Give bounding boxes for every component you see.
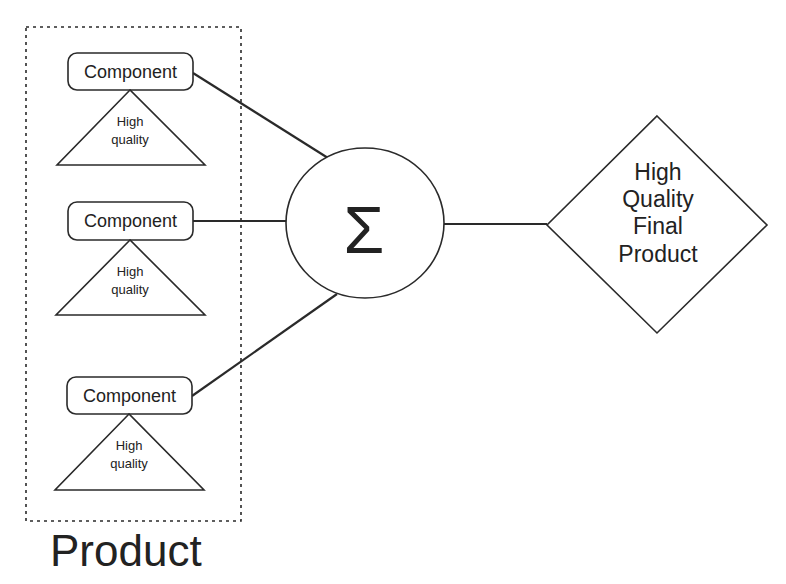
quality-label-line-1: High xyxy=(117,264,144,279)
quality-label-line-1: High xyxy=(116,438,143,453)
quality-aggregation-diagram: Product Component High quality Component… xyxy=(0,0,786,584)
connector-component-1-to-sum xyxy=(193,73,328,158)
component-label: Component xyxy=(84,211,177,231)
product-group-label: Product xyxy=(50,526,202,575)
connector-component-3-to-sum xyxy=(192,294,337,396)
final-product-label-line-2: Quality xyxy=(622,186,694,212)
quality-label-line-2: quality xyxy=(111,132,149,147)
component-node-1: Component High quality xyxy=(57,53,205,165)
component-label: Component xyxy=(83,386,176,406)
component-label: Component xyxy=(84,62,177,82)
quality-label-line-1: High xyxy=(117,114,144,129)
final-product-label-line-4: Product xyxy=(618,241,698,267)
component-node-2: Component High quality xyxy=(56,202,205,315)
summation-icon: Σ xyxy=(344,193,385,267)
final-product-label-line-1: High xyxy=(634,159,681,185)
component-node-3: Component High quality xyxy=(55,377,204,490)
quality-label-line-2: quality xyxy=(111,282,149,297)
final-product-node: High Quality Final Product xyxy=(547,116,767,333)
final-product-label-line-3: Final xyxy=(633,213,683,239)
quality-label-line-2: quality xyxy=(110,456,148,471)
summation-node: Σ xyxy=(286,148,444,298)
